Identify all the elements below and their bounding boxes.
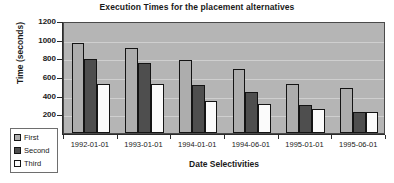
y-axis-line: [62, 22, 63, 135]
x-axis-tick: [385, 135, 386, 139]
legend-item-second[interactable]: Second: [14, 144, 55, 157]
bar-chart: Execution Times for the placement altern…: [0, 0, 394, 183]
x-axis-tick: [117, 135, 118, 139]
x-axis-tick-label: 1992-01-01: [63, 140, 117, 149]
bar-third-1994-01-01: [205, 101, 218, 133]
x-axis-tick: [331, 135, 332, 139]
y-axis-tick: [57, 41, 62, 42]
y-axis-tick-label: 200: [12, 110, 56, 119]
x-axis-tick-label: 1993-01-01: [117, 140, 171, 149]
bar-group: [225, 23, 279, 133]
plot-area: [63, 22, 385, 134]
x-axis-tick-label: 1995-06-01: [331, 140, 385, 149]
x-axis-tick-label: 1995-01-01: [278, 140, 332, 149]
legend-label: Second: [24, 146, 49, 155]
chart-legend: FirstSecondThird: [10, 128, 58, 173]
x-axis-tick: [63, 135, 64, 139]
bar-third-1994-06-01: [258, 104, 271, 133]
bar-third-1992-01-01: [97, 84, 110, 133]
y-axis-tick: [57, 78, 62, 79]
bar-group: [171, 23, 225, 133]
bar-group: [118, 23, 172, 133]
bar-second-1994-01-01: [192, 85, 205, 133]
legend-item-first[interactable]: First: [14, 131, 55, 144]
bar-second-1995-01-01: [299, 105, 312, 133]
bar-group: [332, 23, 385, 133]
legend-swatch-icon: [14, 134, 21, 141]
x-axis-tick: [224, 135, 225, 139]
bar-first-1994-06-01: [233, 69, 246, 133]
x-axis-title: Date Selectivities: [63, 159, 385, 169]
chart-title: Execution Times for the placement altern…: [0, 2, 394, 12]
x-axis-tick: [278, 135, 279, 139]
y-axis-tick: [57, 115, 62, 116]
bar-third-1995-06-01: [366, 112, 379, 133]
legend-label: Third: [24, 159, 41, 168]
bar-second-1993-01-01: [138, 63, 151, 133]
legend-swatch-icon: [14, 160, 21, 167]
x-axis-tick-label: 1994-01-01: [170, 140, 224, 149]
x-axis-tick: [170, 135, 171, 139]
bar-first-1995-06-01: [340, 88, 353, 133]
bar-group: [279, 23, 333, 133]
bar-group: [64, 23, 118, 133]
bar-first-1994-01-01: [179, 60, 192, 133]
bar-second-1992-01-01: [84, 59, 97, 133]
legend-item-third[interactable]: Third: [14, 157, 55, 170]
bars-layer: [64, 23, 384, 133]
bar-third-1995-01-01: [312, 109, 325, 133]
x-axis-tick-label: 1994-06-01: [224, 140, 278, 149]
y-axis-title: Time (seconds): [15, 3, 25, 103]
y-axis-tick: [57, 97, 62, 98]
bar-second-1995-06-01: [353, 112, 366, 133]
y-axis-tick: [57, 22, 62, 23]
legend-swatch-icon: [14, 147, 21, 154]
y-axis-tick: [57, 59, 62, 60]
legend-label: First: [24, 133, 39, 142]
bar-first-1995-01-01: [286, 84, 299, 133]
bar-first-1992-01-01: [72, 43, 85, 133]
bar-second-1994-06-01: [245, 92, 258, 133]
bar-first-1993-01-01: [125, 48, 138, 133]
bar-third-1993-01-01: [151, 84, 164, 133]
